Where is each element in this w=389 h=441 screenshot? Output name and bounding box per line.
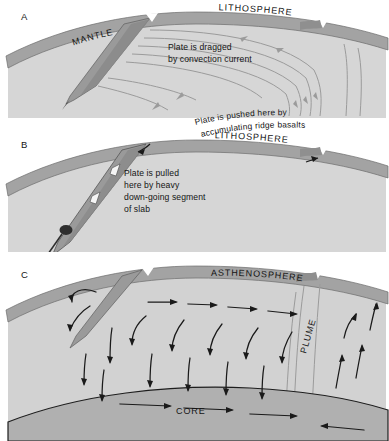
panel-letter-c: C	[21, 269, 28, 280]
slab-pull-note-line2: here by heavy	[124, 180, 180, 190]
panel-c-canvas: C ASTHENOSPHERE PLUME CORE	[0, 258, 389, 441]
plate-tectonics-figure: A MANTLE LITHOSPHERE Plate is dragged by…	[0, 0, 389, 441]
slab-pull-note-line3: down-going segment	[124, 192, 206, 202]
core-label: CORE	[176, 406, 206, 416]
convection-drag-note-line2: by convection current	[168, 54, 252, 64]
slab-pull-note-line1: Plate is pulled	[124, 168, 179, 178]
dense-slab-tip	[60, 225, 73, 235]
slab-pull-note-line4: of slab	[124, 204, 150, 214]
panel-letter-a: A	[21, 11, 28, 22]
panel-c: C ASTHENOSPHERE PLUME CORE	[0, 258, 389, 441]
ridge-push-note: Plate is pushed here by accumulating rid…	[0, 96, 389, 156]
convection-drag-note-line1: Plate is dragged	[168, 42, 232, 52]
